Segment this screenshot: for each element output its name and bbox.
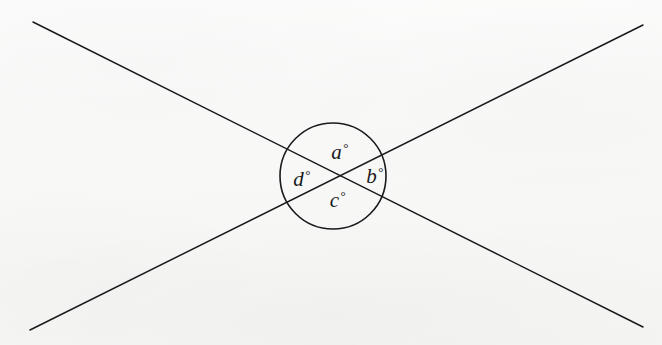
angle-label-a-letter: a [331, 140, 342, 164]
angle-label-c: c° [330, 189, 347, 211]
angle-label-b: b° [366, 165, 384, 187]
angle-label-c-letter: c [330, 188, 340, 212]
angle-label-b-letter: b [366, 164, 377, 188]
line-ascending [30, 25, 643, 330]
angle-label-a: a° [331, 141, 349, 163]
degree-symbol-b: ° [378, 164, 384, 179]
figure-canvas [0, 0, 662, 345]
angle-label-d: d° [293, 168, 311, 190]
angle-label-d-letter: d [293, 167, 304, 191]
degree-symbol-d: ° [305, 167, 311, 182]
geometry-figure: a° b° c° d° [0, 0, 662, 345]
line-descending [33, 22, 643, 327]
degree-symbol-a: ° [343, 140, 349, 155]
degree-symbol-c: ° [341, 188, 347, 203]
